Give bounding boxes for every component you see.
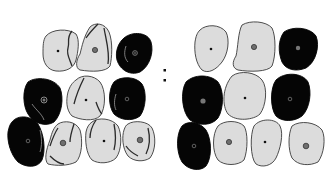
- nucleus-dot: [244, 97, 247, 100]
- nucleus-dot: [210, 48, 213, 51]
- nucleus-granular: [137, 137, 143, 143]
- cell-dark: [183, 76, 223, 124]
- cell-light: [214, 122, 248, 165]
- cell-light: [251, 120, 281, 166]
- separator-colon: [164, 69, 167, 82]
- cell-dark: [110, 78, 146, 120]
- cell-light: [67, 76, 105, 120]
- cell-dark: [279, 28, 317, 70]
- cell-light: [195, 26, 228, 72]
- nucleus-granular: [303, 143, 309, 149]
- cell-diagram: [0, 0, 332, 190]
- cell-dark: [272, 74, 311, 120]
- cell-light: [224, 73, 266, 120]
- cell-dark: [116, 33, 152, 73]
- cell-light: [233, 22, 275, 71]
- nucleus-dot: [264, 141, 267, 144]
- nucleus-granular: [92, 47, 97, 52]
- nucleus-granular: [251, 44, 256, 49]
- cell-light: [86, 119, 121, 163]
- cell-light: [43, 30, 78, 71]
- nucleus-dot: [57, 50, 60, 53]
- nucleus-granular: [226, 139, 231, 144]
- nucleus-granular: [60, 140, 66, 146]
- nucleus-granular: [296, 46, 300, 50]
- cell-light: [46, 122, 82, 166]
- nucleus-dot: [103, 140, 106, 143]
- left-panel: [8, 24, 155, 166]
- cell-light: [77, 24, 112, 71]
- nucleus-dot: [85, 99, 88, 102]
- nucleus-granular: [200, 98, 205, 103]
- cell-dark: [8, 117, 44, 166]
- cell-light: [123, 122, 155, 161]
- cell-light: [289, 123, 324, 165]
- right-panel: [178, 22, 325, 170]
- cell-dark: [178, 123, 211, 170]
